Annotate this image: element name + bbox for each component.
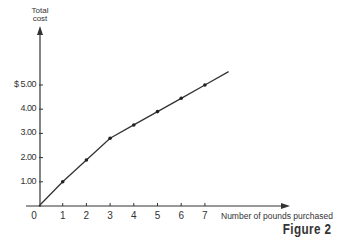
data-point [132,123,136,127]
figure-caption: Figure 2 [282,220,331,237]
x-axis-arrow-icon [281,203,290,209]
x-tick-label: 3 [105,210,115,221]
data-point [108,136,112,140]
series-line [39,72,229,206]
data-point [85,158,89,162]
x-tick-label: 7 [200,210,210,221]
y-tick-label: 3.00 [2,127,36,137]
y-axis-title-line2: cost [25,15,55,23]
x-tick-label: 6 [176,210,186,221]
y-tick-label: 2.00 [2,152,36,162]
y-axis-arrow-icon [37,26,43,35]
data-point [156,110,160,114]
data-point [179,97,183,101]
axis-ticks [39,85,205,206]
data-point [61,180,65,184]
x-tick-label: 5 [153,210,163,221]
y-tick-label: $ 5.00 [2,79,36,89]
x-tick-label: 2 [81,210,91,221]
data-point [203,83,207,87]
y-tick-label: 1.00 [2,176,36,186]
x-tick-label: 0 [29,210,39,221]
y-axis-title: Total cost [25,7,55,23]
x-tick-label: 4 [129,210,139,221]
x-tick-label: 1 [58,210,68,221]
y-tick-label: 4.00 [2,103,36,113]
data-markers [61,83,207,183]
line-chart [0,0,339,243]
